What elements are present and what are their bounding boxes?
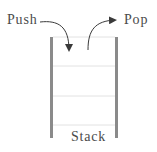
stack-right-wall	[115, 37, 118, 138]
stack-label: Stack	[71, 130, 106, 144]
stack-left-wall	[50, 37, 53, 138]
pop-arrow-icon	[88, 20, 115, 50]
stack-slot-dividers	[53, 37, 115, 125]
stack-diagram: Push Pop Stack	[0, 0, 157, 152]
push-label: Push	[7, 13, 37, 27]
pop-label: Pop	[124, 13, 148, 27]
push-arrow-icon	[40, 22, 69, 50]
